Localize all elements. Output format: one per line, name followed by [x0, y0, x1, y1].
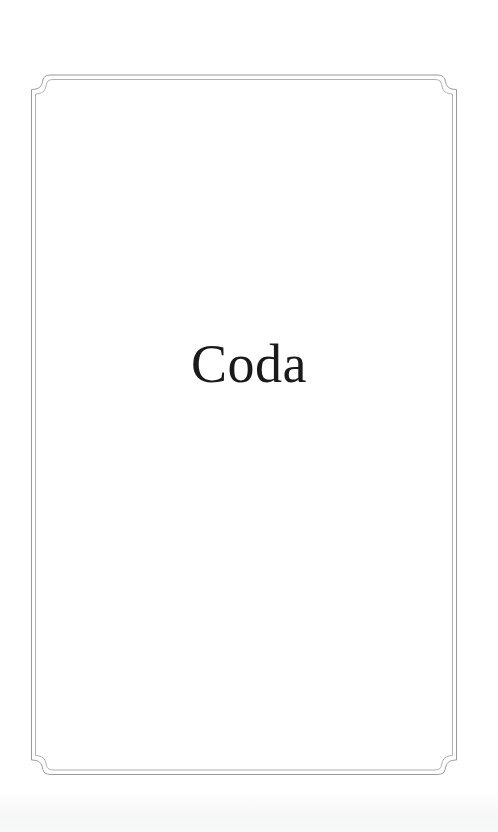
- decorative-border-frame: [0, 0, 498, 832]
- border-rule-outer: [32, 75, 457, 775]
- border-rule-inner: [36, 80, 453, 771]
- scan-noise-band: [0, 792, 498, 832]
- page-title: Coda: [191, 336, 307, 392]
- border-frame-svg: [0, 0, 498, 832]
- part-title-block: Coda: [0, 336, 498, 392]
- book-page: Coda: [0, 0, 498, 832]
